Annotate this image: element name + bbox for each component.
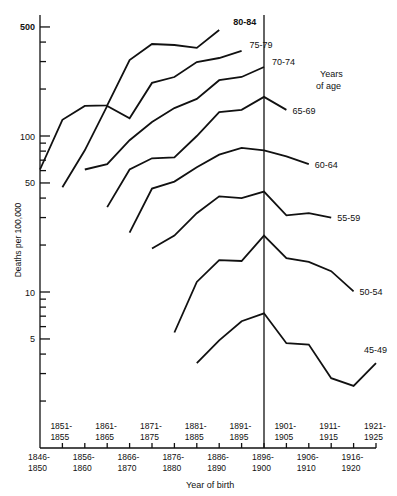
x-axis-label: Year of birth <box>186 480 234 490</box>
x-tick-label: 1900 <box>252 463 271 473</box>
series-line-45-49 <box>197 313 376 386</box>
x-tick-label: 1911- <box>319 421 340 431</box>
x-tick-label: 1916- <box>342 452 364 462</box>
x-tick-label: 1885 <box>185 432 204 442</box>
x-tick-label: 1925 <box>364 432 383 442</box>
x-axis-ticks: 1846-18501851-18551856-18601861-18651866… <box>28 421 386 473</box>
series-line-75-79 <box>62 51 241 187</box>
y-tick-label: 500 <box>20 22 35 32</box>
series-label: 70-74 <box>272 57 295 67</box>
x-tick-label: 1886- <box>207 452 229 462</box>
x-tick-label: 1890 <box>207 463 226 473</box>
x-tick-label: 1920 <box>342 463 361 473</box>
series-label: 65-69 <box>292 106 315 116</box>
legend-title-line2: of age <box>316 81 341 91</box>
x-tick-label: 1891- <box>230 421 252 431</box>
x-tick-label: 1906- <box>297 452 319 462</box>
x-tick-label: 1905 <box>274 432 293 442</box>
x-tick-label: 1856- <box>73 452 95 462</box>
y-axis-label: Deaths per 100,000 <box>13 202 23 277</box>
x-tick-label: 1865 <box>95 432 114 442</box>
y-axis-ticks: 50010050105 <box>20 22 50 401</box>
series-label: 55-59 <box>337 213 360 223</box>
x-tick-label: 1876- <box>162 452 184 462</box>
series-label: 50-54 <box>360 287 383 297</box>
series-line-70-74 <box>85 67 264 170</box>
series-label: 60-64 <box>315 160 338 170</box>
x-tick-label: 1866- <box>118 452 140 462</box>
series-line-80-84 <box>40 30 219 170</box>
x-tick-label: 1915 <box>319 432 338 442</box>
series-label: 45-49 <box>364 345 387 355</box>
legend-title-line1: Years <box>320 69 343 79</box>
y-tick-label: 5 <box>30 334 35 344</box>
y-tick-label: 100 <box>20 132 35 142</box>
x-tick-label: 1861- <box>95 421 117 431</box>
x-tick-label: 1851- <box>50 421 72 431</box>
axes <box>40 15 376 448</box>
x-tick-label: 1855 <box>50 432 69 442</box>
x-tick-label: 1880 <box>162 463 181 473</box>
x-tick-label: 1846- <box>28 452 50 462</box>
x-tick-label: 1881- <box>185 421 207 431</box>
x-tick-label: 1901- <box>274 421 296 431</box>
x-tick-label: 1895 <box>230 432 249 442</box>
x-tick-label: 1850 <box>28 463 47 473</box>
series-labels: 80-8475-7970-7465-6960-6455-5950-5445-49 <box>233 17 387 355</box>
y-tick-label: 10 <box>25 288 35 298</box>
x-tick-label: 1870 <box>118 463 137 473</box>
series-label: 75-79 <box>250 40 273 50</box>
x-tick-label: 1875 <box>140 432 159 442</box>
x-tick-label: 1910 <box>297 463 316 473</box>
series-line-65-69 <box>107 97 286 207</box>
cohort-mortality-chart: 50010050105 1846-18501851-18551856-18601… <box>0 0 397 496</box>
x-tick-label: 1896- <box>252 452 274 462</box>
x-tick-label: 1871- <box>140 421 162 431</box>
series-line-55-59 <box>152 192 331 249</box>
x-tick-label: 1860 <box>73 463 92 473</box>
series-label: 80-84 <box>233 17 256 27</box>
series-line-60-64 <box>130 148 309 233</box>
y-tick-label: 50 <box>25 178 35 188</box>
x-tick-label: 1921- <box>364 421 386 431</box>
